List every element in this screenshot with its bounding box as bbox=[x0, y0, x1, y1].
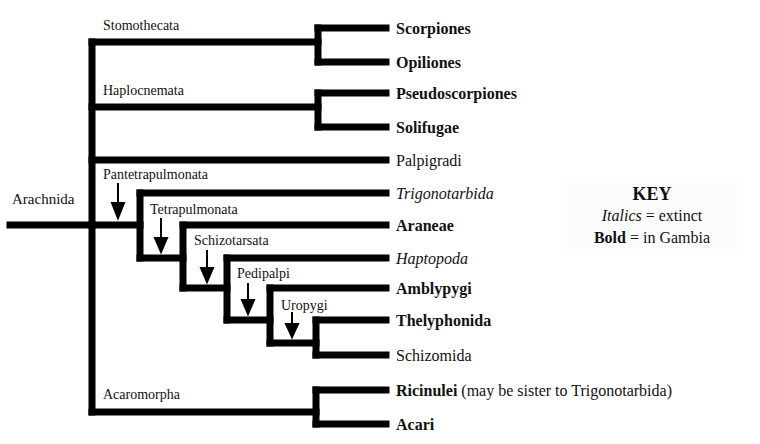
clade-label-uropygi: Uropygi bbox=[281, 299, 328, 313]
leaf-schizomida: Schizomida bbox=[396, 348, 472, 364]
clade-label-stomothecata: Stomothecata bbox=[103, 19, 179, 33]
leaf-amblypygi: Amblypygi bbox=[396, 281, 472, 297]
leaf-trigonotarbida: Trigonotarbida bbox=[396, 186, 494, 202]
clade-label-pedipalpi: Pedipalpi bbox=[237, 267, 290, 281]
clade-label-tetrapulmonata: Tetrapulmonata bbox=[150, 203, 238, 217]
arrow-down-icon-pedipalpi bbox=[242, 283, 254, 314]
legend-key: KEY Italics = extinct Bold = in Gambia bbox=[562, 183, 742, 249]
arrow-down-icon-tetrapulmonata bbox=[155, 218, 167, 252]
key-italics-row: Italics = extinct bbox=[562, 205, 742, 227]
leaf-haptopoda: Haptopoda bbox=[396, 251, 468, 267]
key-italics-meaning: = extinct bbox=[646, 207, 703, 224]
leaf-acari: Acari bbox=[396, 417, 434, 433]
leaf-palpigradi: Palpigradi bbox=[396, 153, 462, 169]
key-bold-row: Bold = in Gambia bbox=[562, 227, 742, 249]
arrow-down-icon-uropygi bbox=[286, 312, 298, 337]
root-label: Arachnida bbox=[12, 192, 74, 207]
leaf-ricinulei-note: (may be sister to Trigonotarbida) bbox=[461, 382, 672, 399]
leaf-ricinulei: Ricinulei bbox=[396, 382, 457, 399]
leaf-opiliones: Opiliones bbox=[396, 55, 461, 71]
clade-label-haplocnemata: Haplocnemata bbox=[103, 84, 184, 98]
clade-label-schizotarsata: Schizotarsata bbox=[194, 234, 269, 248]
leaf-ricinulei-row: Ricinulei (may be sister to Trigonotarbi… bbox=[396, 383, 672, 399]
arrow-down-icon-schizotarsata bbox=[201, 250, 213, 282]
key-bold-meaning: = in Gambia bbox=[630, 229, 710, 246]
key-title: KEY bbox=[562, 183, 742, 205]
key-bold-word: Bold bbox=[594, 229, 626, 246]
leaf-scorpiones: Scorpiones bbox=[396, 21, 471, 37]
key-italics-word: Italics bbox=[602, 207, 642, 224]
leaf-thelyphonida: Thelyphonida bbox=[396, 313, 491, 329]
arrow-down-icon-pantetrapulmonata bbox=[112, 183, 124, 218]
leaf-solifugae: Solifugae bbox=[396, 120, 459, 136]
clade-label-acaromorpha: Acaromorpha bbox=[103, 388, 180, 402]
leaf-araneae: Araneae bbox=[396, 218, 454, 234]
leaf-pseudoscorpiones: Pseudoscorpiones bbox=[396, 86, 517, 102]
clade-label-pantetrapulmonata: Pantetrapulmonata bbox=[103, 168, 208, 182]
